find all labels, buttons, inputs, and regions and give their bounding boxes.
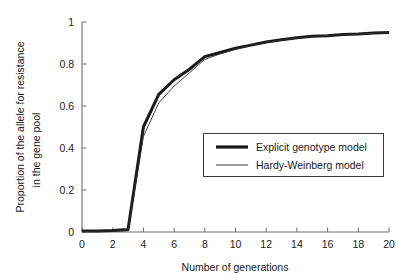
x-tick-label: 20 <box>383 238 395 250</box>
y-tick-label: 0.8 <box>59 58 74 70</box>
x-tick-label: 8 <box>202 238 208 250</box>
y-axis-title-line2: in the gene pool <box>30 113 42 188</box>
x-tick-label: 14 <box>291 238 303 250</box>
chart-legend: Explicit genotype model Hardy-Weinberg m… <box>204 134 384 177</box>
x-tick-label: 4 <box>140 238 146 250</box>
x-axis-title: Number of generations <box>182 261 289 273</box>
y-tick-label: 1 <box>68 16 74 28</box>
x-tick-label: 16 <box>322 238 334 250</box>
x-tick-label: 12 <box>260 238 272 250</box>
y-tick-label: 0.6 <box>59 100 74 112</box>
chart-figure: 02468101214161820 00.20.40.60.81 Number … <box>0 0 410 280</box>
y-axis-title-line1: Proportion of the allele for resistance <box>14 41 26 212</box>
x-tick-label: 18 <box>352 238 364 250</box>
line-chart: 02468101214161820 00.20.40.60.81 Number … <box>0 0 410 280</box>
x-tick-label: 10 <box>230 238 242 250</box>
legend-label-hardy-weinberg-model: Hardy-Weinberg model <box>256 159 364 171</box>
y-tick-label: 0.2 <box>59 184 74 196</box>
legend-label-explicit-genotype-model: Explicit genotype model <box>256 141 367 153</box>
y-tick-label: 0 <box>68 226 74 238</box>
x-tick-label: 6 <box>171 238 177 250</box>
x-tick-label: 2 <box>110 238 116 250</box>
x-tick-label: 0 <box>79 238 85 250</box>
y-tick-label: 0.4 <box>59 142 74 154</box>
